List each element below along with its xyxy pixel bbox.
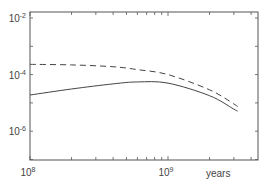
plot-frame (30, 12, 258, 160)
series-dashed (30, 64, 238, 107)
axis-ticks (30, 12, 258, 160)
x-axis-label: years (206, 168, 230, 179)
data-series (30, 64, 238, 111)
x-tick-label: 108 (20, 166, 35, 178)
series-solid (30, 82, 238, 112)
y-tick-label: 10-4 (9, 69, 26, 81)
x-tick-label: 109 (158, 166, 173, 178)
y-tick-label: 10-2 (9, 12, 26, 24)
y-tick-label: 10-6 (9, 125, 26, 137)
chart: 10-210-410-6108109 years (0, 0, 269, 184)
